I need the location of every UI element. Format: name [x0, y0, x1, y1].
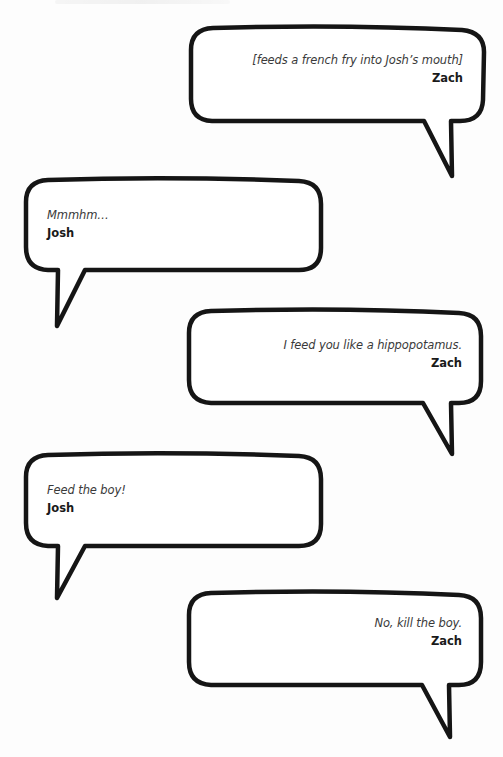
speaker-name: Josh: [47, 501, 126, 516]
speaker-name: Zach: [374, 634, 462, 649]
speaker-name: Zach: [283, 356, 462, 371]
dialogue-line: Feed the boy!: [47, 483, 126, 498]
speech-bubble-2-outline: [26, 178, 321, 326]
speech-bubble-5-outline: [189, 591, 481, 737]
dialogue-line: Mmmhm…: [47, 208, 109, 223]
speech-bubble-1-outline: [191, 26, 484, 176]
speaker-name: Josh: [47, 226, 109, 241]
speech-bubble-4-outline: [26, 453, 321, 598]
faint-bleed-through-text: [55, 0, 230, 4]
speech-bubble-3-outline: [189, 309, 481, 454]
speech-bubble-1: [feeds a french fry into Josh’s mouth] Z…: [252, 53, 463, 86]
speech-bubble-2: Mmmhm… Josh: [47, 208, 109, 241]
speech-bubble-4: Feed the boy! Josh: [47, 483, 126, 516]
speech-bubble-5: No, kill the boy. Zach: [374, 616, 462, 649]
comic-dialogue-page: [feeds a french fry into Josh’s mouth] Z…: [0, 0, 503, 757]
speech-bubble-3: I feed you like a hippopotamus. Zach: [283, 338, 462, 371]
dialogue-line: [feeds a french fry into Josh’s mouth]: [252, 53, 463, 68]
dialogue-line: No, kill the boy.: [374, 616, 462, 631]
speaker-name: Zach: [252, 71, 463, 86]
dialogue-line: I feed you like a hippopotamus.: [283, 338, 462, 353]
